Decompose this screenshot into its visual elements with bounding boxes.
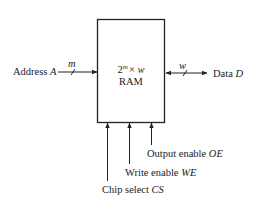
- address-input: Address A m: [13, 58, 97, 77]
- ram-name-label: RAM: [119, 76, 144, 87]
- data-label: Data D: [213, 68, 243, 79]
- write-enable-label: Write enable WE: [125, 167, 197, 178]
- data-bus-width: w: [179, 60, 186, 71]
- address-label: Address A: [13, 66, 57, 77]
- ram-size-label: 2m× w: [118, 63, 145, 75]
- output-enable-input: Output enable OE: [147, 123, 223, 159]
- output-enable-label: Output enable OE: [147, 148, 223, 159]
- data-port: w Data D: [166, 60, 243, 79]
- chip-select-input: Chip select CS: [102, 123, 165, 195]
- address-bus-width: m: [68, 58, 76, 69]
- chip-select-label: Chip select CS: [102, 184, 165, 195]
- ram-block-diagram: 2m× w RAM Address A m w Data D Chip sele…: [0, 0, 254, 200]
